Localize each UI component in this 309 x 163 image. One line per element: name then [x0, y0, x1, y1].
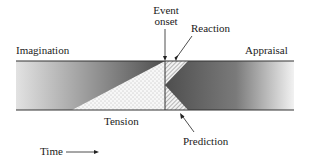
emotion-timeline-diagram: Event onset Reaction Imagination Apprais… — [0, 0, 309, 163]
appraisal-label: Appraisal — [245, 45, 288, 56]
reaction-label: Reaction — [191, 23, 230, 34]
prediction-label: Prediction — [183, 136, 228, 147]
event-onset-label-line2: onset — [151, 16, 181, 27]
appraisal-region — [165, 61, 294, 110]
time-label: Time — [40, 146, 63, 157]
reaction-arrow-icon — [175, 36, 193, 61]
time-arrow-icon — [66, 150, 99, 154]
event-onset-arrow-icon — [163, 29, 167, 61]
tension-label: Tension — [104, 116, 139, 127]
imagination-label: Imagination — [16, 45, 69, 56]
event-onset-label: Event onset — [151, 5, 181, 27]
prediction-arrow-icon — [180, 113, 194, 132]
